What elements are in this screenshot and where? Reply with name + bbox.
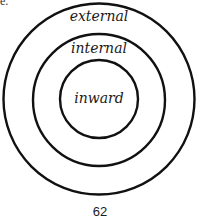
label-external: external [70, 9, 129, 23]
concentric-circles-diagram [0, 0, 197, 217]
corner-text-fragment: e. [0, 0, 8, 9]
page-number: 62 [93, 205, 107, 217]
label-internal: internal [71, 41, 127, 55]
label-inward: inward [74, 91, 123, 105]
diagram-canvas: e. external internal inward 62 [0, 0, 197, 217]
